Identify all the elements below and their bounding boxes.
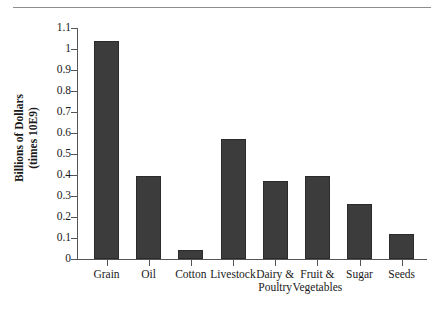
x-tick-mark (402, 259, 403, 266)
bar (305, 176, 330, 259)
y-tick-label: 1 (65, 43, 71, 55)
bar (347, 204, 372, 259)
y-tick-label: 0.4 (57, 169, 71, 181)
x-axis-spine (77, 259, 427, 260)
y-tick-mark (71, 154, 77, 155)
bar (221, 139, 246, 259)
bar (389, 234, 414, 259)
y-tick-mark (71, 175, 77, 176)
y-tick-mark (71, 133, 77, 134)
x-tick-mark (317, 259, 318, 266)
x-tick-mark (360, 259, 361, 266)
x-tick-mark (107, 259, 108, 266)
y-tick-mark (71, 28, 77, 29)
y-tick-mark (71, 112, 77, 113)
x-tick-label: Seeds (362, 268, 442, 281)
y-tick-mark (71, 49, 77, 50)
y-tick-mark (71, 217, 77, 218)
bar (136, 176, 161, 259)
x-tick-mark (233, 259, 234, 266)
x-tick-mark (149, 259, 150, 266)
y-tick-mark (71, 196, 77, 197)
y-tick-label: 0.2 (57, 211, 71, 223)
x-tick-mark (275, 259, 276, 266)
y-tick-mark (71, 70, 77, 71)
y-axis-title-text: Billions of Dollars (times 10E9) (13, 94, 39, 182)
y-tick-label: 0.3 (57, 190, 71, 202)
y-tick-label: 1.1 (57, 22, 71, 34)
bar (94, 41, 119, 259)
y-tick-mark (71, 91, 77, 92)
x-tick-mark (191, 259, 192, 266)
chart-figure: Billions of Dollars (times 10E9) 1.110.9… (0, 0, 444, 310)
plot-area: 1.110.90.80.70.60.50.40.30.20.10 GrainOi… (77, 28, 427, 259)
y-tick-label: 0.7 (57, 106, 71, 118)
y-tick-label: 0.5 (57, 148, 71, 160)
y-tick-mark (71, 238, 77, 239)
y-tick-label: 0.1 (57, 232, 71, 244)
y-tick-label: 0 (65, 253, 71, 265)
bar (178, 250, 203, 259)
y-tick-label: 0.6 (57, 127, 71, 139)
top-divider-rule (13, 7, 431, 8)
y-axis-title: Billions of Dollars (times 10E9) (13, 88, 43, 188)
y-tick-label: 0.8 (57, 85, 71, 97)
y-axis-spine (77, 28, 78, 259)
y-tick-label: 0.9 (57, 64, 71, 76)
bar (263, 181, 288, 259)
y-tick-mark (71, 259, 77, 260)
